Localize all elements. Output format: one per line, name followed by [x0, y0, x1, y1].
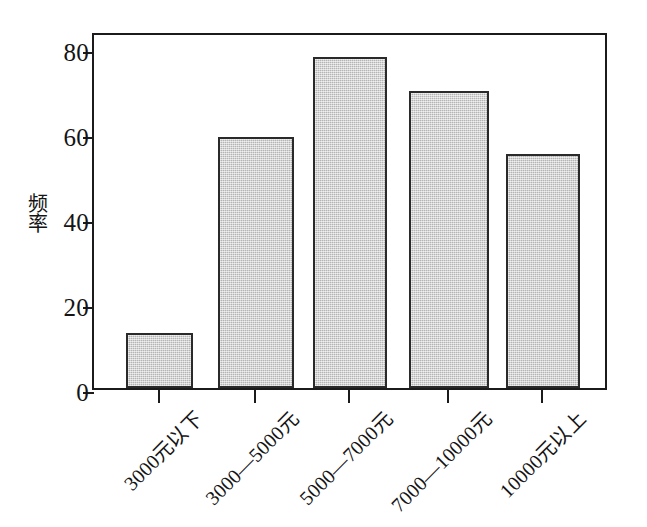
bar-5000-7000元 [313, 57, 387, 389]
x-axis-label-1: 3000—5000元 [202, 408, 302, 508]
y-axis-title-char-1: 频 [24, 194, 52, 214]
bar-3000元以下 [126, 333, 193, 388]
y-axis-tick-label: 40 [63, 210, 89, 235]
x-axis-tick-mark [541, 390, 543, 403]
y-axis-title: 频 率 [24, 194, 52, 235]
y-axis-tick-label: 80 [63, 40, 89, 65]
y-axis-tick-label: 0 [76, 380, 89, 405]
x-axis-tick-mark [158, 390, 160, 403]
y-axis-title-char-2: 率 [24, 214, 52, 234]
x-axis-tick-mark [348, 390, 350, 403]
x-axis-label-3: 7000—10000元 [388, 408, 496, 516]
bar-7000-10000元 [409, 91, 489, 389]
x-axis-label-2: 5000—7000元 [296, 408, 396, 508]
y-axis-tick-label: 60 [63, 125, 89, 150]
y-axis-tick-label: 20 [63, 295, 89, 320]
x-axis-label-0: 3000元以下 [120, 408, 206, 494]
bar-3000-5000元 [218, 137, 294, 388]
x-axis-tick-mark [254, 390, 256, 403]
plot-area: 0 20 40 60 80 [92, 33, 607, 390]
x-axis-tick-mark [447, 390, 449, 403]
chart-page: 频 率 0 20 40 60 80 300 [0, 0, 647, 527]
bar-10000元以上 [506, 154, 580, 388]
x-axis-label-4: 10000元以上 [496, 408, 589, 501]
